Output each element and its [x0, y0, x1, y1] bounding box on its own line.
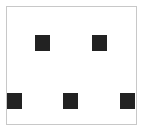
- square-4[interactable]: [120, 93, 135, 109]
- square-1[interactable]: [92, 35, 107, 51]
- square-3[interactable]: [63, 93, 78, 109]
- square-0[interactable]: [35, 35, 50, 51]
- square-2[interactable]: [7, 93, 22, 109]
